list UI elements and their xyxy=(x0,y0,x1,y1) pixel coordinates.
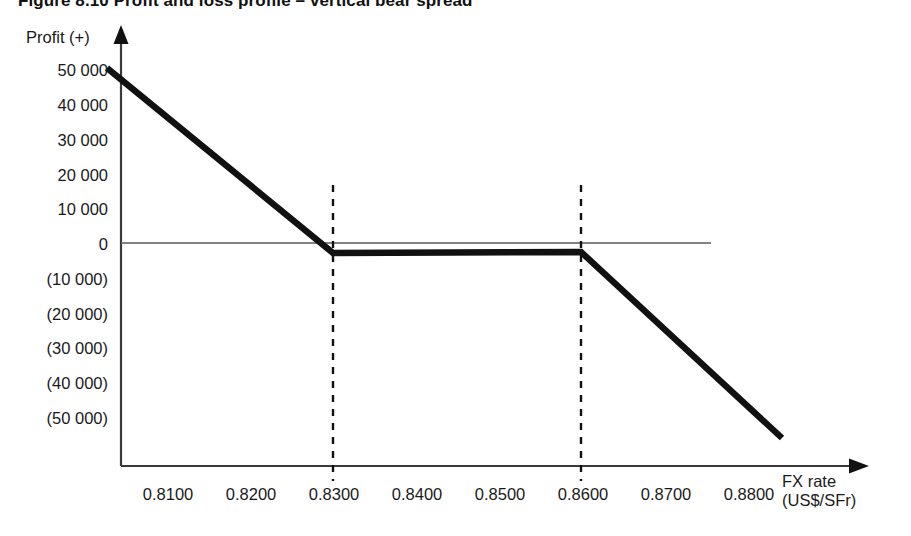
x-axis xyxy=(121,459,869,474)
x-tick-label: 0.8400 xyxy=(392,485,442,504)
y-axis-title: Profit (+) xyxy=(26,28,90,47)
x-tick-label: 0.8700 xyxy=(641,485,691,504)
x-tick-label: 0.8600 xyxy=(558,485,608,504)
y-tick-label: (40 000) xyxy=(14,374,108,393)
y-tick-label: 20 000 xyxy=(24,166,108,185)
x-tick-label: 0.8800 xyxy=(724,485,774,504)
y-tick-label: 40 000 xyxy=(24,96,108,115)
y-tick-label: 0 xyxy=(24,235,108,254)
payoff-line xyxy=(107,68,782,438)
chart-plot-area: Profit (+) 50 000 40 000 30 000 20 000 1… xyxy=(0,0,911,536)
y-tick-label: (20 000) xyxy=(14,305,108,324)
x-axis-title: FX rate (US$/SFr) xyxy=(782,472,856,510)
y-tick-label: (50 000) xyxy=(14,409,108,428)
x-tick-label: 0.8500 xyxy=(475,485,525,504)
y-tick-label: (10 000) xyxy=(14,270,108,289)
y-axis xyxy=(114,25,129,466)
x-tick-label: 0.8100 xyxy=(143,485,193,504)
y-tick-label: (30 000) xyxy=(14,339,108,358)
chart-svg xyxy=(0,0,911,536)
y-tick-label: 30 000 xyxy=(24,131,108,150)
y-tick-label: 10 000 xyxy=(24,200,108,219)
y-tick-label: 50 000 xyxy=(24,61,108,80)
x-axis-title-line2: (US$/SFr) xyxy=(782,491,856,510)
x-axis-title-line1: FX rate xyxy=(782,472,836,490)
x-tick-label: 0.8200 xyxy=(226,485,276,504)
x-tick-label: 0.8300 xyxy=(309,485,359,504)
